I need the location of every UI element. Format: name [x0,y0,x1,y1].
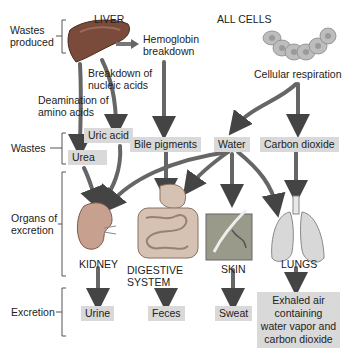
nucleic-acids-label: Breakdown of nucleic acids [88,67,152,91]
digestive-system-label: DIGESTIVE SYSTEM [127,264,183,288]
kidney-label: KIDNEY [79,258,118,270]
all-cells-label: ALL CELLS [217,13,271,25]
excretion-feces: Feces [148,306,185,321]
kidney-icon [77,203,116,249]
excretion-sweat: Sweat [215,306,252,321]
waste-water: Water [214,137,250,152]
digestive-system-icon [138,184,198,258]
label-wastes-produced: Wastes produced [10,24,54,48]
skin-label: SKIN [221,263,246,275]
lungs-label: LUNGS [281,258,317,270]
deamination-label: Deamination of amino acids [38,94,109,118]
liver-label: LIVER [94,13,124,25]
label-organs-of-excretion: Organs of excretion [11,212,57,236]
cellular-respiration-label: Cellular respiration [254,68,342,80]
skin-icon [206,210,252,260]
waste-urea: Urea [68,150,107,165]
hemoglobin-breakdown-label: Hemoglobin breakdown [143,33,199,57]
excretion-urine: Urine [81,306,114,321]
liver-icon [68,20,130,62]
waste-carbon-dioxide: Carbon dioxide [260,137,339,152]
waste-uric-acid: Uric acid [84,128,133,143]
label-wastes: Wastes [11,142,46,154]
label-excretion: Excretion [11,306,55,318]
excretion-exhaled-air: Exhaled air containing water vapor and c… [257,292,340,348]
row-brackets [50,20,66,336]
lungs-icon [272,196,324,262]
cells-icon [263,28,336,60]
waste-bile-pigments: Bile pigments [130,137,201,152]
